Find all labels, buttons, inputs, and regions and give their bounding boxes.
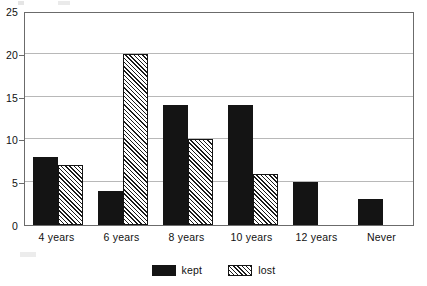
- bar-kept-4-years: [33, 157, 58, 225]
- scan-artifact-lower: [20, 252, 36, 257]
- x-axis-tick-label: 6 years: [89, 231, 154, 243]
- bar-kept-never: [358, 199, 383, 225]
- y-axis-tick-label: 10: [6, 135, 18, 145]
- bars-layer: [25, 13, 413, 225]
- y-axis-tick-label: 20: [6, 50, 18, 60]
- bar-kept-10-years: [228, 105, 253, 225]
- legend-label-kept: kept: [182, 265, 203, 276]
- y-axis-tick-label: 15: [6, 93, 18, 103]
- x-axis-tick-label: 8 years: [154, 231, 219, 243]
- legend-item-lost: lost: [228, 265, 275, 276]
- bar-kept-6-years: [98, 191, 123, 225]
- bar-kept-8-years: [163, 105, 188, 225]
- y-axis-tick-label: 25: [6, 7, 18, 17]
- bar-kept-12-years: [293, 182, 318, 225]
- bar-lost-6-years: [123, 54, 148, 225]
- legend-swatch-kept: [152, 265, 176, 276]
- legend-swatch-lost: [228, 265, 252, 276]
- x-axis-tick-label: 12 years: [284, 231, 349, 243]
- x-axis-tick-label: 10 years: [219, 231, 284, 243]
- y-axis: 0510152025: [0, 0, 24, 240]
- scan-artifact: [18, 1, 248, 5]
- plot-area: [24, 12, 414, 226]
- bar-lost-10-years: [253, 174, 278, 225]
- bar-lost-8-years: [188, 139, 213, 225]
- y-axis-tick-label: 0: [12, 221, 18, 231]
- x-axis: 4 years6 years8 years10 years12 yearsNev…: [24, 231, 414, 247]
- x-axis-tick-label: Never: [349, 231, 414, 243]
- chart-legend: keptlost: [0, 262, 427, 278]
- legend-item-kept: kept: [152, 265, 203, 276]
- bar-lost-4-years: [58, 165, 83, 225]
- y-axis-tick-label: 5: [12, 178, 18, 188]
- legend-label-lost: lost: [258, 265, 275, 276]
- x-axis-tick-label: 4 years: [24, 231, 89, 243]
- bar-chart-figure: 0510152025 4 years6 years8 years10 years…: [0, 0, 427, 286]
